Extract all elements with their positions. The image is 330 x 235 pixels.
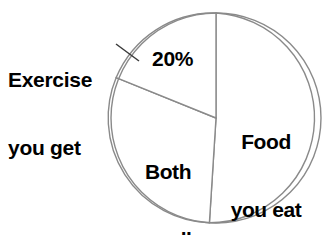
pie-label-both-equally: Both equally 31%	[120, 116, 216, 235]
pie-label-exercise-you-get: Exercise you get	[8, 24, 92, 205]
pie-label-both-line-2: equally	[120, 229, 216, 235]
pie-label-food-line-1: Food	[218, 131, 314, 154]
pie-label-exercise-line-1: Exercise	[8, 69, 92, 92]
pie-label-both-line-1: Both	[120, 161, 216, 184]
pie-label-food-line-2: you eat	[218, 199, 314, 222]
pie-value-exercise-you-get: 20%	[152, 48, 193, 71]
pie-chart-figure: Exercise you get 20% Food you eat 49% Bo…	[0, 0, 330, 235]
pie-label-food-you-eat: Food you eat 49%	[218, 86, 314, 235]
pie-label-exercise-line-2: you get	[8, 137, 92, 160]
